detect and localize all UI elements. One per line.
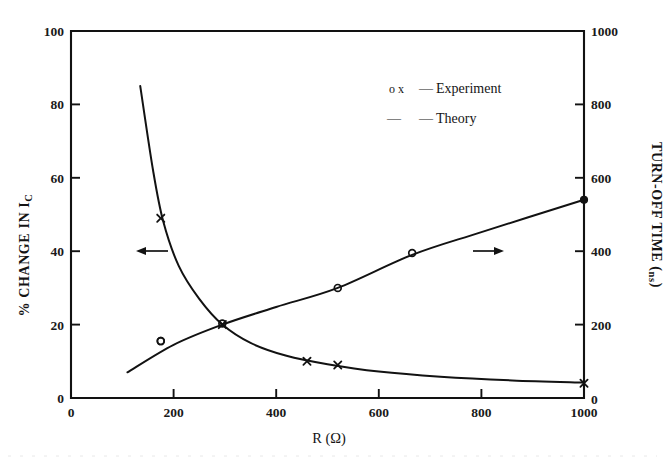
y-right-tick-label: 200 xyxy=(591,318,612,333)
legend-label-experiment: Experiment xyxy=(436,81,501,96)
x-tick-label: 200 xyxy=(163,405,184,420)
y-right-tick-labels: 0 200 400 600 800 1000 xyxy=(591,24,618,407)
y-left-tick-label: 60 xyxy=(51,171,65,186)
svg-text:TURN-OFF TIME (ns): TURN-OFF TIME (ns) xyxy=(647,142,664,288)
y-left-tick-label: 80 xyxy=(51,97,65,112)
y-left-tick-label: 20 xyxy=(51,318,65,333)
data-curve xyxy=(140,86,584,383)
y-right-tick-label: 1000 xyxy=(591,24,618,39)
legend-entry-experiment: o x — Experiment xyxy=(389,81,501,96)
y-right-tick-label: 800 xyxy=(591,97,612,112)
y-right-title-sub: ns xyxy=(647,272,658,283)
y-left-tick-label: 0 xyxy=(57,391,64,406)
left-arrow-annotation xyxy=(136,247,168,255)
x-tick-label: 0 xyxy=(68,405,75,420)
axes-frame xyxy=(71,31,584,398)
data-point-circle-marker xyxy=(157,338,164,345)
legend-dash-b-icon: — xyxy=(418,111,434,126)
y-left-ticks xyxy=(71,31,80,398)
x-tick-label: 800 xyxy=(471,405,492,420)
right-arrow-annotation xyxy=(473,247,504,255)
y-right-title-main: TURN-OFF TIME ( xyxy=(648,142,664,272)
y-right-title-end: ) xyxy=(648,283,664,288)
y-left-tick-label: 40 xyxy=(51,244,65,259)
x-tick-label: 400 xyxy=(266,405,287,420)
y-right-tick-label: 600 xyxy=(591,171,612,186)
x-axis-title: R (Ω) xyxy=(312,430,346,447)
y-left-tick-labels: 0 20 40 60 80 100 xyxy=(44,24,65,406)
data-markers-layer xyxy=(157,196,587,387)
y-left-axis-title: % CHANGE IN IC xyxy=(17,194,34,317)
legend-dash-icon: — xyxy=(418,81,434,96)
chart-svg: 0 20 40 60 80 100 0 200 400 600 800 1000 xyxy=(0,0,665,459)
y-left-tick-label: 100 xyxy=(44,24,65,39)
y-left-title-sub: C xyxy=(23,194,34,202)
y-left-title-main: % CHANGE IN I xyxy=(17,202,32,317)
legend-label-theory: Theory xyxy=(436,111,476,126)
data-curve xyxy=(127,200,584,372)
figure-container: 0 20 40 60 80 100 0 200 400 600 800 1000 xyxy=(0,0,665,459)
svg-text:% CHANGE IN IC: % CHANGE IN IC xyxy=(17,194,34,317)
data-curves-layer xyxy=(127,86,584,383)
x-tick-label: 1000 xyxy=(571,405,598,420)
y-right-ticks xyxy=(575,31,584,398)
x-ticks xyxy=(71,389,584,398)
legend-markers-icon: o x xyxy=(389,82,404,96)
legend-entry-theory: — — Theory xyxy=(386,111,476,126)
y-right-tick-label: 400 xyxy=(591,244,612,259)
data-point-circle-marker xyxy=(581,196,588,203)
x-tick-labels: 0 200 400 600 800 1000 xyxy=(68,405,598,420)
y-right-axis-title: TURN-OFF TIME (ns) xyxy=(647,142,664,288)
legend-dash-a-icon: — xyxy=(386,111,402,126)
x-tick-label: 600 xyxy=(369,405,390,420)
legend: o x — Experiment — — Theory xyxy=(386,81,501,126)
plot-frame xyxy=(71,31,584,398)
